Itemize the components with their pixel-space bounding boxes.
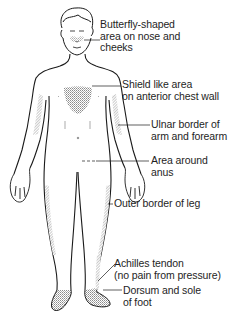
label-line: cheeks [100,42,180,54]
label-shield: Shield like area on anterior chest wall [122,79,219,102]
ulnar-right-shading [112,94,122,135]
label-line: Shield like area [122,79,219,91]
label-line: Outer border of leg [114,198,200,210]
butterfly-area-shading [70,36,84,42]
label-achilles: Achilles tendon (no pain from pressure) [114,258,221,281]
label-butterfly: Butterfly-shaped area on nose and cheeks [100,19,180,54]
label-foot: Dorsum and sole of foot [123,285,201,308]
label-line: Ulnar border of [151,119,227,131]
label-line: on anterior chest wall [122,91,219,103]
label-line: Area around [151,155,208,167]
feet [51,288,110,311]
label-line: of foot [123,297,201,309]
shield-area-shading [64,87,92,115]
label-line: Achilles tendon [114,258,221,270]
leg-right-outer-shading [98,185,110,255]
label-line: anus [151,167,208,179]
label-line: (no pain from pressure) [114,270,221,282]
label-line: Dorsum and sole [123,285,201,297]
head [61,8,93,55]
label-ulnar: Ulnar border of arm and forearm [151,119,227,142]
legs-outline [44,172,111,290]
label-leg: Outer border of leg [114,198,200,210]
label-line: arm and forearm [151,131,227,143]
label-line: Butterfly-shaped [100,19,180,31]
achilles-shading [96,255,101,290]
ulnar-left-shading [33,94,43,135]
label-anus: Area around anus [151,155,208,178]
